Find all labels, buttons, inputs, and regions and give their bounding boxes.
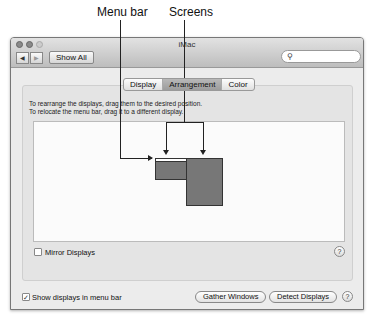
show-in-menu-bar-label: Show displays in menu bar [32,293,122,302]
forward-arrow-icon: ▶ [34,55,39,61]
window-title: iMac [11,40,363,49]
search-icon: ⚲ [287,52,293,61]
instructions: To rearrange the displays, drag them to … [29,100,202,116]
screens-arrowhead-right [200,150,206,155]
tab-bar: Display Arrangement Color [123,78,255,91]
callout-menu-bar: Menu bar [97,5,148,19]
screens-leader-vertical [184,20,185,122]
gather-windows-button[interactable]: Gather Windows [195,291,266,303]
tab-arrangement[interactable]: Arrangement [163,79,222,90]
screens-arrowhead-left [163,150,169,155]
back-button[interactable]: ◀ [16,52,29,64]
secondary-display[interactable] [155,158,187,180]
help-button-panel[interactable]: ? [334,246,345,257]
mirror-displays-label: Mirror Displays [45,248,95,257]
main-display[interactable] [186,158,223,206]
display-arrangement-area [33,121,345,242]
menu-bar-leader-vertical [120,20,121,158]
search-input[interactable]: ⚲ [281,50,361,63]
screens-leader-right [203,122,204,152]
instruction-line-2: To relocate the menu bar, drag it to a d… [29,108,202,116]
detect-displays-button[interactable]: Detect Displays [269,291,337,303]
back-arrow-icon: ◀ [20,55,25,61]
show-all-button[interactable]: Show All [49,51,94,64]
help-button-footer[interactable]: ? [342,291,353,302]
menu-bar-indicator[interactable] [156,159,186,162]
tab-color[interactable]: Color [222,79,253,90]
menu-bar-arrowhead [148,155,153,161]
screens-leader-horizontal [166,122,203,123]
screens-leader-left [166,122,167,152]
show-in-menu-bar-checkbox[interactable]: ✓ [22,293,30,301]
title-bar: iMac ◀ ▶ Show All ⚲ [11,38,363,68]
forward-button[interactable]: ▶ [30,52,43,64]
callout-screens: Screens [169,5,213,19]
tab-display[interactable]: Display [124,79,163,90]
instruction-line-1: To rearrange the displays, drag them to … [29,100,202,108]
arrangement-panel: To rearrange the displays, drag them to … [22,85,353,281]
preferences-window: iMac ◀ ▶ Show All ⚲ Display Arrangement … [10,37,364,310]
checkmark-icon: ✓ [23,294,29,301]
mirror-displays-checkbox[interactable] [34,248,42,256]
